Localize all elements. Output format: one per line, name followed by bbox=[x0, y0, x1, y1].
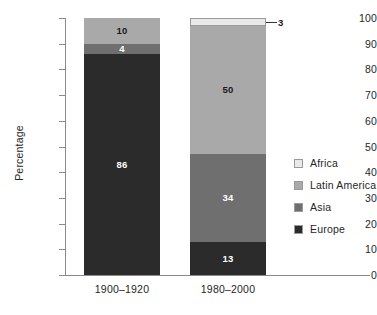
bar-segment-latin-america: 50 bbox=[190, 26, 266, 155]
y-tick-label: 80 bbox=[323, 63, 377, 75]
y-tick-label: 90 bbox=[323, 38, 377, 50]
legend-item-asia[interactable]: Asia bbox=[294, 196, 376, 218]
y-tick-label: 50 bbox=[323, 141, 377, 153]
legend-label: Asia bbox=[310, 201, 331, 213]
bar-segment-africa bbox=[190, 18, 266, 26]
bar-segment-asia: 34 bbox=[190, 154, 266, 241]
y-tick-mark bbox=[59, 275, 65, 276]
callout-label-africa: 3 bbox=[278, 17, 283, 28]
legend: AfricaLatin AmericaAsiaEurope bbox=[294, 152, 376, 240]
y-tick-mark bbox=[59, 69, 65, 70]
legend-swatch-icon bbox=[294, 159, 303, 168]
y-axis-title: Percentage bbox=[13, 108, 25, 198]
callout-leader-line bbox=[266, 22, 277, 23]
y-tick-mark bbox=[59, 249, 65, 250]
bar-segment-asia: 4 bbox=[84, 44, 160, 54]
x-axis-label-0: 1900–1920 bbox=[62, 283, 182, 295]
bar-1900-1920: 86410 bbox=[84, 18, 160, 275]
x-axis-label-1: 1980–2000 bbox=[168, 283, 288, 295]
y-tick-mark bbox=[59, 224, 65, 225]
y-tick-mark bbox=[59, 121, 65, 122]
y-tick-mark bbox=[59, 147, 65, 148]
legend-item-latin-america[interactable]: Latin America bbox=[294, 174, 376, 196]
stacked-bar-chart: Percentage 1009080706050403020100 86410 … bbox=[0, 0, 377, 315]
y-tick-mark bbox=[59, 198, 65, 199]
y-tick-mark bbox=[59, 44, 65, 45]
y-tick-label: 100 bbox=[323, 12, 377, 24]
legend-swatch-icon bbox=[294, 225, 303, 234]
legend-label: Europe bbox=[310, 223, 345, 235]
y-tick-mark bbox=[59, 172, 65, 173]
y-tick-label: 10 bbox=[323, 243, 377, 255]
y-tick-mark bbox=[59, 95, 65, 96]
y-tick-label: 70 bbox=[323, 89, 377, 101]
y-tick-label: 60 bbox=[323, 115, 377, 127]
legend-swatch-icon bbox=[294, 203, 303, 212]
legend-item-europe[interactable]: Europe bbox=[294, 218, 376, 240]
legend-item-africa[interactable]: Africa bbox=[294, 152, 376, 174]
legend-label: Africa bbox=[310, 157, 338, 169]
bar-segment-europe: 13 bbox=[190, 242, 266, 275]
y-axis-line bbox=[65, 18, 66, 275]
legend-swatch-icon bbox=[294, 181, 303, 190]
bar-segment-latin-america: 10 bbox=[84, 18, 160, 44]
bar-segment-europe: 86 bbox=[84, 54, 160, 275]
legend-label: Latin America bbox=[310, 179, 376, 191]
bar-1980-2000: 133450 bbox=[190, 18, 266, 275]
y-tick-mark bbox=[59, 18, 65, 19]
y-tick-label: 0 bbox=[323, 269, 377, 281]
